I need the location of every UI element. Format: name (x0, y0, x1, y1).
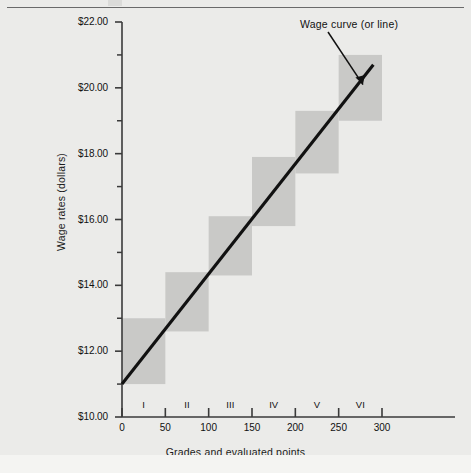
x-tick-label: 50 (148, 422, 182, 433)
x-tick-label: 100 (192, 422, 226, 433)
grade-label-V: V (302, 399, 332, 410)
grade-label-VI: VI (345, 399, 375, 410)
x-tick-label: 300 (365, 422, 399, 433)
x-tick-label: 150 (235, 422, 269, 433)
grade-label-IV: IV (259, 399, 289, 410)
wage-curve-line (122, 65, 373, 384)
grade-label-I: I (129, 399, 159, 410)
x-tick-label: 200 (278, 422, 312, 433)
x-axis-title: Grades and evaluated points (0, 446, 471, 458)
grade-range-box-VI (339, 55, 382, 121)
grade-range-box-V (295, 111, 338, 174)
x-tick-label: 0 (105, 422, 139, 433)
x-tick-label: 250 (322, 422, 356, 433)
y-tick-label: $18.00 (52, 148, 108, 159)
y-tick-label: $16.00 (52, 214, 108, 225)
grade-label-II: II (172, 399, 202, 410)
y-tick-label: $10.00 (52, 411, 108, 422)
y-tick-label: $22.00 (52, 16, 108, 27)
wage-curve-annotation: Wage curve (or line) (300, 18, 398, 30)
y-tick-label: $14.00 (52, 279, 108, 290)
y-tick-label: $20.00 (52, 82, 108, 93)
y-tick-label: $12.00 (52, 345, 108, 356)
grade-label-III: III (215, 399, 245, 410)
wage-curve-stroke (122, 65, 373, 384)
wage-curve-figure: Wage rates (dollars) Grades and evaluate… (0, 0, 471, 473)
